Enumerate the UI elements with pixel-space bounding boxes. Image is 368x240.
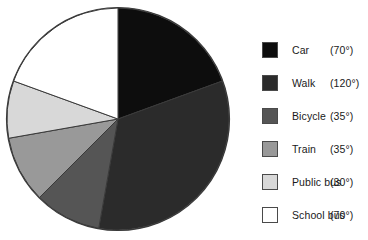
legend-swatch-car — [262, 42, 278, 58]
legend-angle-walk: (120°) — [330, 73, 359, 93]
legend-item-school-bus[interactable]: School bus (70°) — [258, 203, 368, 236]
legend-swatch-bicycle — [262, 108, 278, 124]
legend-label-train: Train — [292, 139, 316, 159]
legend-item-train[interactable]: Train (35°) — [258, 137, 368, 170]
legend-angle-public-bus: (30°) — [330, 172, 353, 192]
legend-swatch-school-bus — [262, 207, 278, 223]
legend-angle-school-bus: (70°) — [330, 205, 353, 225]
legend-label-car: Car — [292, 40, 309, 60]
legend-item-public-bus[interactable]: Public bus (30°) — [258, 170, 368, 203]
legend-label-walk: Walk — [292, 73, 315, 93]
legend-swatch-public-bus — [262, 174, 278, 190]
pie-chart-figure: Car (70°) Walk (120°) Bicycle (35°) Trai… — [0, 0, 368, 240]
legend-swatch-walk — [262, 75, 278, 91]
pie-chart-svg — [5, 6, 231, 232]
legend-angle-bicycle: (35°) — [330, 106, 353, 126]
legend-item-walk[interactable]: Walk (120°) — [258, 71, 368, 104]
legend-swatch-train — [262, 141, 278, 157]
legend-item-car[interactable]: Car (70°) — [258, 38, 368, 71]
legend-item-bicycle[interactable]: Bicycle (35°) — [258, 104, 368, 137]
pie-slice-group — [7, 8, 229, 230]
pie-chart-plot-area — [5, 6, 231, 232]
legend-label-bicycle: Bicycle — [292, 106, 326, 126]
chart-legend: Car (70°) Walk (120°) Bicycle (35°) Trai… — [258, 38, 368, 236]
legend-angle-train: (35°) — [330, 139, 353, 159]
legend-angle-car: (70°) — [330, 40, 353, 60]
